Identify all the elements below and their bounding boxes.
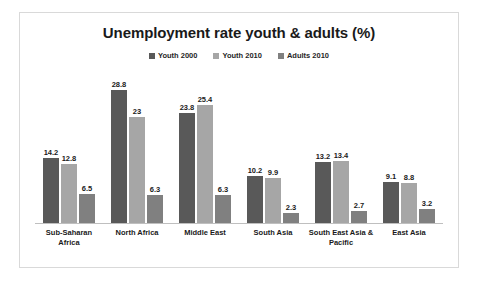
bar-item[interactable]: 9.1 [383,73,399,224]
plot-area: 14.212.86.528.8236.323.825.46.310.29.92.… [21,73,457,266]
bar-item[interactable]: 8.8 [401,73,417,224]
bar-item[interactable]: 10.2 [247,73,263,224]
bar[interactable] [265,178,281,224]
bar[interactable] [129,117,145,224]
bar-item[interactable]: 14.2 [43,73,59,224]
legend-item-youth-2000[interactable]: Youth 2000 [149,51,197,60]
bar-item[interactable]: 13.4 [333,73,349,224]
bar-item[interactable]: 25.4 [197,73,213,224]
bar[interactable] [215,195,231,224]
bar-value-label: 23.8 [180,103,195,112]
chart-legend: Youth 2000 Youth 2010 Adults 2010 [20,51,458,60]
bar-group: 9.18.83.2 [375,73,443,224]
bar[interactable] [43,158,59,224]
bar[interactable] [179,113,195,224]
x-axis-label: South Asia [239,226,307,248]
bar[interactable] [419,209,435,224]
bar-value-label: 9.1 [386,172,396,181]
bar-value-label: 3.2 [422,199,432,208]
bar-item[interactable]: 12.8 [61,73,77,224]
legend-label-youth-2010: Youth 2010 [222,51,261,60]
x-axis-label: East Asia [375,226,443,248]
chart-title: Unemployment rate youth & adults (%) [20,24,458,41]
legend-swatch-youth-2010 [213,53,219,59]
bar-value-label: 28.8 [112,80,127,89]
bar-value-label: 2.7 [354,201,364,210]
bar-value-label: 8.8 [404,173,414,182]
bar[interactable] [383,182,399,224]
bar[interactable] [111,90,127,224]
x-axis-label: North Africa [103,226,171,248]
x-axis-label: South East Asia & Pacific [307,226,375,248]
bar-value-label: 2.3 [286,203,296,212]
bar-item[interactable]: 23 [129,73,145,224]
bar-group: 10.29.92.3 [239,73,307,224]
chart-container: Unemployment rate youth & adults (%) You… [19,12,459,268]
bar-group: 28.8236.3 [103,73,171,224]
bar-value-label: 6.5 [82,184,92,193]
bar[interactable] [79,194,95,224]
x-axis-line [35,223,443,224]
legend-item-youth-2010[interactable]: Youth 2010 [213,51,261,60]
bar-item[interactable]: 3.2 [419,73,435,224]
bar[interactable] [333,161,349,224]
legend-label-adults-2010: Adults 2010 [287,51,329,60]
bar[interactable] [147,195,163,224]
bar-groups: 14.212.86.528.8236.323.825.46.310.29.92.… [35,73,443,224]
legend-item-adults-2010[interactable]: Adults 2010 [278,51,329,60]
bar[interactable] [61,164,77,224]
bar-item[interactable]: 2.7 [351,73,367,224]
bar-value-label: 13.4 [334,151,349,160]
bar-item[interactable]: 6.3 [147,73,163,224]
bar-item[interactable]: 13.2 [315,73,331,224]
bar-value-label: 23 [133,107,141,116]
bar-value-label: 9.9 [268,168,278,177]
x-axis-label: Sub-Saharan Africa [35,226,103,248]
bar[interactable] [315,162,331,224]
bar-group: 23.825.46.3 [171,73,239,224]
bar[interactable] [197,105,213,224]
bar-item[interactable]: 2.3 [283,73,299,224]
bar[interactable] [247,176,263,224]
bar-value-label: 6.3 [150,185,160,194]
bar-item[interactable]: 6.5 [79,73,95,224]
bar-value-label: 10.2 [248,166,263,175]
bar-item[interactable]: 6.3 [215,73,231,224]
bar-value-label: 14.2 [44,148,59,157]
bar-value-label: 6.3 [218,185,228,194]
x-axis-label: Middle East [171,226,239,248]
legend-swatch-adults-2010 [278,53,284,59]
bar-value-label: 12.8 [62,154,77,163]
bar-item[interactable]: 23.8 [179,73,195,224]
bar[interactable] [401,183,417,224]
bar-group: 14.212.86.5 [35,73,103,224]
x-axis-labels: Sub-Saharan AfricaNorth AfricaMiddle Eas… [35,226,443,248]
bar-group: 13.213.42.7 [307,73,375,224]
bar-value-label: 25.4 [198,95,213,104]
bar-value-label: 13.2 [316,152,331,161]
legend-swatch-youth-2000 [149,53,155,59]
legend-label-youth-2000: Youth 2000 [158,51,197,60]
bar-item[interactable]: 9.9 [265,73,281,224]
bar-item[interactable]: 28.8 [111,73,127,224]
